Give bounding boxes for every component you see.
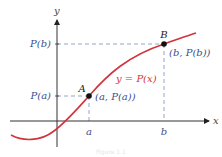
point-B-name: B	[159, 29, 167, 40]
a-label: a	[86, 126, 92, 137]
curve-label: y = P(x)	[115, 73, 157, 84]
point-A-name: A	[77, 83, 85, 94]
point-B	[161, 41, 167, 47]
point-B-coords: (b, P(b))	[169, 47, 211, 58]
y-axis-label: y	[53, 5, 60, 16]
pa-label: P(a)	[30, 90, 52, 101]
figure-caption: Figure 1.1	[96, 148, 126, 156]
point-A	[86, 93, 92, 99]
pb-label: P(b)	[29, 38, 51, 49]
function-diagram: y x P(b) P(a) a b A B (a, P(a)) (b, P(b)…	[0, 0, 222, 157]
b-label: b	[161, 126, 167, 137]
point-A-coords: (a, P(a))	[95, 91, 136, 102]
x-axis-label: x	[213, 115, 219, 126]
